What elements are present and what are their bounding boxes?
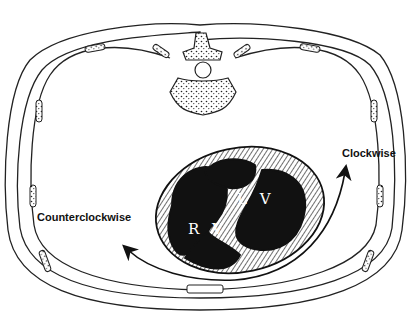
left-ventricle-label: L V — [237, 190, 275, 208]
thorax-diagram — [0, 0, 413, 324]
heart — [144, 132, 336, 289]
counterclockwise-label: Counterclockwise — [37, 211, 131, 223]
vertebra — [170, 33, 236, 115]
clockwise-label: Clockwise — [342, 147, 396, 159]
right-ventricle-label: R V — [188, 220, 227, 238]
